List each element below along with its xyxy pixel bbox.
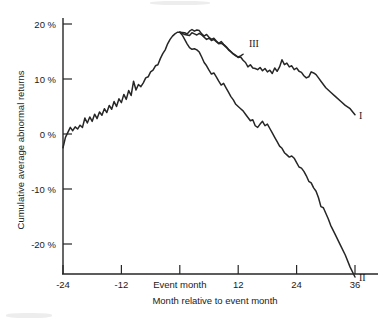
y-axis-tick-label: 0 % bbox=[40, 129, 57, 140]
curve-curve-i bbox=[180, 30, 355, 115]
y-axis-tick-label: -10 % bbox=[31, 184, 56, 195]
y-axis-title: Cumulative average abnormal returns bbox=[15, 70, 26, 229]
scan-artifact-bottom bbox=[6, 313, 52, 318]
x-axis-tick-label: -12 bbox=[115, 279, 129, 290]
curve-curve-ii bbox=[180, 32, 355, 277]
x-axis: -24-12Event month122436 bbox=[56, 265, 378, 290]
y-axis-tick-label: -20 % bbox=[31, 239, 56, 250]
cumulative-abnormal-returns-chart: 20 %10 %0 %-10 %-20 % -24-12Event month1… bbox=[0, 0, 388, 320]
chart-figure: 20 %10 %0 %-10 %-20 % -24-12Event month1… bbox=[0, 0, 388, 320]
curve-label-iii: III bbox=[249, 38, 259, 49]
x-axis-tick-label: -24 bbox=[56, 279, 70, 290]
data-curves bbox=[63, 30, 355, 278]
y-axis-tick-label: 20 % bbox=[34, 19, 56, 30]
curve-labels: IIIIII bbox=[249, 38, 366, 283]
scan-artifact-top bbox=[150, 1, 210, 5]
x-axis-tick-label: 24 bbox=[291, 279, 302, 290]
x-axis-tick-label: 12 bbox=[233, 279, 244, 290]
curve-label-ii: II bbox=[359, 272, 366, 283]
curve-label-i: I bbox=[359, 110, 362, 121]
x-axis-title: Month relative to event month bbox=[152, 295, 277, 306]
x-axis-tick-label: Event month bbox=[153, 279, 206, 290]
curve-common-pre-event-path bbox=[63, 32, 180, 148]
y-axis-tick-label: 10 % bbox=[34, 74, 56, 85]
y-axis: 20 %10 %0 %-10 %-20 % bbox=[31, 18, 72, 274]
